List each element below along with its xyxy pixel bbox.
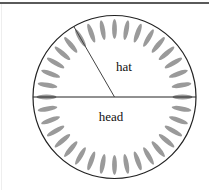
tick-mark	[40, 68, 60, 79]
tick-mark	[171, 105, 192, 113]
tick-mark	[112, 155, 117, 175]
tick-mark	[122, 154, 130, 175]
tick-mark	[99, 20, 107, 41]
lower-label: head	[99, 109, 124, 124]
tick-mark	[73, 146, 87, 166]
tick-mark	[157, 132, 175, 149]
tick-mark	[86, 23, 97, 43]
tick-mark	[132, 151, 143, 171]
tick-mark	[99, 154, 107, 175]
upper-label: hat	[116, 59, 132, 74]
tick-mark	[53, 132, 71, 149]
tick-mark	[63, 140, 80, 158]
tick-mark	[37, 81, 58, 89]
tick-mark	[164, 124, 184, 138]
dial-diagram: hat head	[0, 0, 209, 190]
tick-mark	[164, 56, 184, 70]
tick-mark	[112, 19, 117, 39]
tick-mark	[46, 56, 66, 70]
tick-mark	[141, 28, 155, 48]
tick-mark	[171, 81, 192, 89]
tick-mark	[141, 146, 155, 166]
tick-mark	[168, 115, 188, 126]
tick-mark	[122, 20, 130, 41]
tick-mark	[46, 124, 66, 138]
tick-mark	[132, 23, 143, 43]
tick-mark	[150, 36, 167, 54]
tick-mark	[40, 115, 60, 126]
tick-mark	[150, 140, 167, 158]
tick-mark	[157, 45, 175, 62]
tick-mark	[86, 151, 97, 171]
tick-mark	[53, 45, 71, 62]
tick-mark	[37, 105, 58, 113]
tick-mark	[168, 68, 188, 79]
tick-mark	[63, 36, 80, 54]
